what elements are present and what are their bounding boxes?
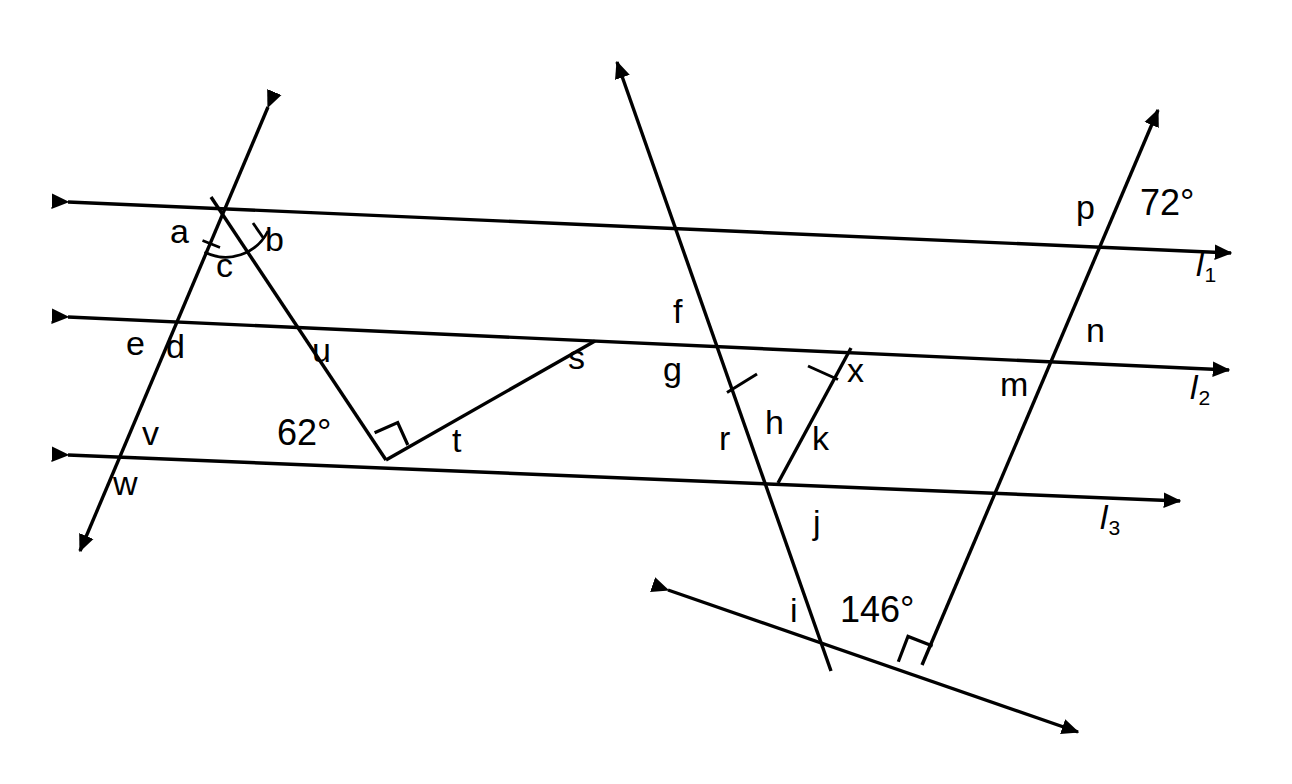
label-m: m: [1000, 367, 1028, 401]
line-l3: [68, 455, 1180, 501]
right-angle-marker-62: [375, 423, 408, 445]
segment-s-t: [386, 341, 595, 460]
angle-label-72: 72°: [1140, 185, 1194, 221]
label-h: h: [765, 405, 784, 439]
line-label-l2: l2: [1190, 370, 1210, 408]
label-j: j: [813, 505, 821, 539]
label-g: g: [663, 352, 682, 386]
line-label-l2-base: l: [1190, 368, 1198, 406]
label-i: i: [790, 593, 798, 627]
label-e: e: [126, 326, 145, 360]
geometry-canvas: [0, 0, 1292, 784]
label-c: c: [216, 248, 233, 282]
label-a: a: [170, 214, 189, 248]
line-label-l3-base: l: [1100, 498, 1108, 536]
label-u: u: [312, 333, 331, 367]
label-x: x: [847, 353, 864, 387]
label-d: d: [166, 329, 185, 363]
transversal-right: [922, 110, 1158, 665]
label-w: w: [113, 466, 138, 500]
line-l2: [68, 317, 1229, 370]
label-p: p: [1076, 190, 1095, 224]
line-label-l1-base: l: [1196, 245, 1204, 283]
line-label-l1-sub: 1: [1204, 263, 1217, 286]
angle-label-146: 146°: [840, 592, 914, 628]
transversal-middle: [617, 62, 831, 671]
line-label-l1: l1: [1196, 247, 1216, 285]
label-r: r: [719, 421, 730, 455]
tick-mark-segment-x: [808, 366, 838, 380]
angle-label-62: 62°: [277, 415, 331, 451]
label-t: t: [452, 423, 461, 457]
label-k: k: [812, 421, 829, 455]
geometry-figure: a b c e d u v w s t f g r h k x j i m n …: [0, 0, 1292, 784]
label-b: b: [265, 222, 284, 256]
line-label-l2-sub: 2: [1198, 386, 1211, 409]
line-label-l3: l3: [1100, 500, 1120, 538]
label-n: n: [1086, 313, 1105, 347]
line-label-l3-sub: 3: [1108, 516, 1121, 539]
label-v: v: [142, 416, 159, 450]
label-f: f: [673, 294, 682, 328]
label-s: s: [568, 340, 585, 374]
